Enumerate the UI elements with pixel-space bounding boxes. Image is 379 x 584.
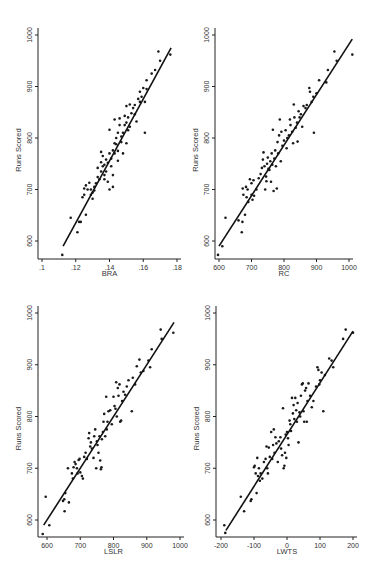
chart-panel-lwts: 6007008009001000-200-1000100200LWTSRuns …: [189, 292, 379, 584]
data-point: [154, 69, 157, 72]
data-points: [41, 328, 174, 535]
data-point: [317, 369, 320, 372]
data-point: [283, 139, 286, 142]
data-point: [145, 79, 148, 82]
chart-panel-lslr: 60070080090010006007008009001000LSLRRuns…: [0, 292, 190, 584]
data-point: [268, 446, 271, 449]
data-point: [316, 366, 319, 369]
data-point: [276, 141, 279, 144]
data-point: [278, 440, 281, 443]
data-point: [249, 178, 252, 181]
data-point: [328, 357, 331, 360]
data-point: [74, 463, 77, 466]
data-point: [293, 418, 296, 421]
data-point: [106, 420, 109, 423]
data-point: [118, 124, 121, 127]
data-point: [292, 412, 295, 415]
data-point: [76, 231, 79, 234]
data-point: [250, 498, 253, 501]
data-point: [263, 165, 266, 168]
data-point: [288, 419, 291, 422]
data-point: [126, 385, 129, 388]
data-point: [125, 105, 128, 108]
data-point: [289, 118, 292, 121]
data-point: [267, 472, 270, 475]
data-point: [108, 188, 111, 191]
data-point: [103, 178, 106, 181]
data-point: [123, 124, 126, 127]
data-point: [264, 458, 267, 461]
data-point: [69, 217, 72, 220]
x-tick-label: 700: [74, 542, 86, 549]
data-point: [223, 524, 226, 527]
data-point: [253, 194, 256, 197]
data-point: [257, 475, 260, 478]
y-tick-label: 1000: [203, 27, 210, 43]
data-point: [129, 103, 132, 106]
data-point: [272, 444, 275, 447]
data-point: [89, 445, 92, 448]
data-point: [258, 467, 261, 470]
data-point: [87, 437, 90, 440]
scatter-plot-rc: 60070080090010006007008009001000RCRuns S…: [189, 0, 379, 292]
data-point: [130, 112, 133, 115]
axes: 60070080090010006007008009001000RCRuns S…: [191, 27, 357, 278]
data-point: [91, 198, 94, 201]
scatter-plot-lwts: 6007008009001000-200-1000100200LWTSRuns …: [189, 292, 379, 584]
y-axis-title: Runs Scored: [191, 128, 200, 171]
y-tick-label: 900: [26, 81, 33, 93]
data-point: [150, 348, 153, 351]
data-point: [312, 400, 315, 403]
data-point: [281, 454, 284, 457]
data-point: [83, 187, 86, 190]
data-point: [265, 445, 268, 448]
data-point: [280, 131, 283, 134]
y-tick-label: 800: [26, 132, 33, 144]
y-tick-label: 700: [204, 462, 211, 474]
data-point: [285, 457, 288, 460]
data-point: [101, 438, 104, 441]
x-tick-label: 900: [311, 264, 323, 271]
data-point: [272, 190, 275, 193]
data-point: [284, 129, 287, 132]
data-point: [41, 533, 44, 536]
data-point: [85, 213, 88, 216]
data-point: [159, 328, 162, 331]
data-points: [217, 50, 354, 256]
data-point: [257, 177, 260, 180]
data-point: [112, 174, 115, 177]
data-points: [61, 50, 172, 256]
data-point: [112, 186, 115, 189]
data-point: [138, 358, 141, 361]
data-point: [244, 213, 247, 216]
y-tick-label: 900: [203, 81, 210, 93]
data-point: [76, 467, 79, 470]
data-point: [313, 132, 316, 135]
data-point: [100, 170, 103, 173]
data-point: [142, 87, 145, 90]
x-tick-label: .18: [172, 264, 182, 271]
data-point: [282, 407, 285, 410]
data-point: [279, 436, 282, 439]
data-point: [144, 101, 147, 104]
data-point: [344, 328, 347, 331]
data-point: [269, 456, 272, 459]
data-point: [296, 402, 299, 405]
data-point: [264, 188, 267, 191]
data-point: [289, 124, 292, 127]
data-point: [246, 188, 249, 191]
data-point: [93, 435, 96, 438]
data-point: [280, 447, 283, 450]
data-point: [330, 359, 333, 362]
data-point: [307, 382, 310, 385]
data-point: [80, 221, 83, 224]
data-point: [318, 79, 321, 82]
data-point: [303, 420, 306, 423]
data-point: [301, 125, 304, 128]
data-point: [140, 96, 143, 99]
x-tick-label: 200: [347, 542, 359, 549]
data-point: [242, 193, 245, 196]
data-point: [259, 173, 262, 176]
y-axis-title: Runs Scored: [14, 407, 23, 450]
data-point: [96, 176, 99, 179]
